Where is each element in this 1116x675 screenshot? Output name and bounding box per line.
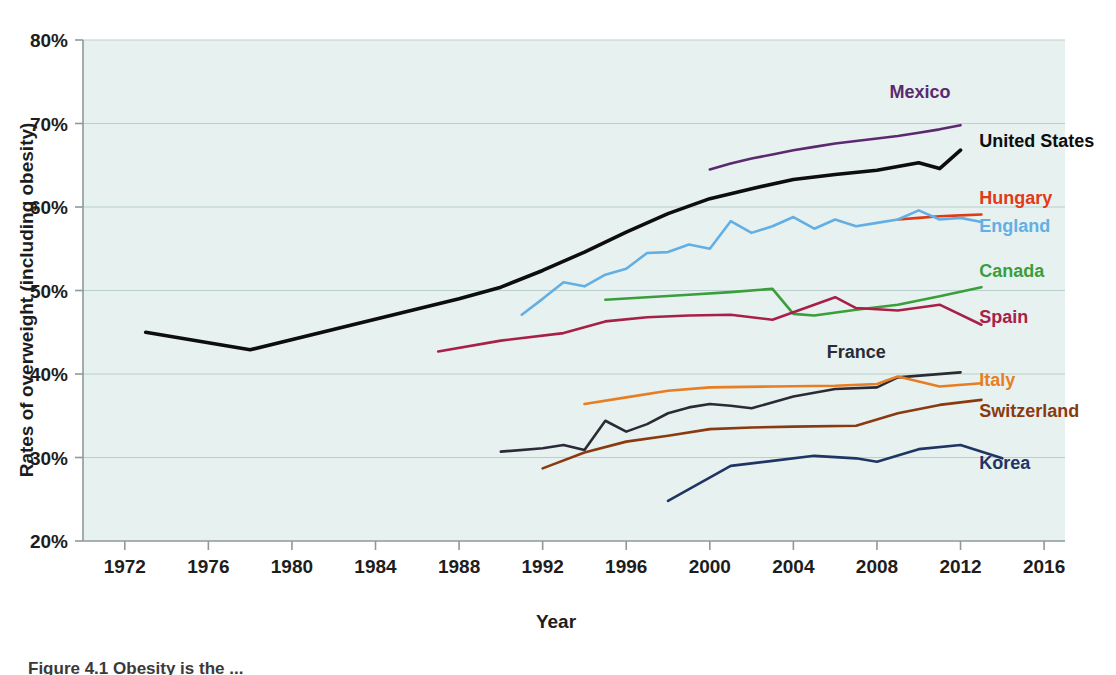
y-tick-label-80%: 80% bbox=[30, 30, 68, 51]
series-label-canada: Canada bbox=[979, 261, 1045, 281]
x-tick-label-1984: 1984 bbox=[354, 556, 397, 577]
x-axis-title: Year bbox=[536, 611, 577, 632]
x-tick-label-1972: 1972 bbox=[104, 556, 146, 577]
y-tick-label-20%: 20% bbox=[30, 531, 68, 552]
x-tick-label-1988: 1988 bbox=[438, 556, 480, 577]
x-tick-label-2000: 2000 bbox=[689, 556, 731, 577]
series-label-mexico: Mexico bbox=[889, 82, 950, 102]
series-label-italy: Italy bbox=[979, 370, 1015, 390]
x-tick-label-2008: 2008 bbox=[856, 556, 898, 577]
series-label-korea: Korea bbox=[979, 453, 1031, 473]
x-tick-label-1980: 1980 bbox=[271, 556, 313, 577]
x-tick-label-2016: 2016 bbox=[1023, 556, 1065, 577]
y-axis-title: Rates of overweight (including obesity) bbox=[16, 123, 37, 478]
x-tick-label-1996: 1996 bbox=[605, 556, 647, 577]
x-tick-label-2004: 2004 bbox=[772, 556, 815, 577]
series-label-england: England bbox=[979, 216, 1050, 236]
figure-caption: Figure 4.1 Obesity is the ... bbox=[28, 659, 243, 675]
x-tick-label-2012: 2012 bbox=[939, 556, 981, 577]
series-label-united-states: United States bbox=[979, 131, 1094, 151]
series-label-hungary: Hungary bbox=[979, 188, 1052, 208]
series-label-switzerland: Switzerland bbox=[979, 401, 1079, 421]
x-tick-label-1976: 1976 bbox=[187, 556, 229, 577]
series-label-spain: Spain bbox=[979, 307, 1028, 327]
x-tick-label-1992: 1992 bbox=[522, 556, 564, 577]
series-label-france: France bbox=[827, 342, 886, 362]
